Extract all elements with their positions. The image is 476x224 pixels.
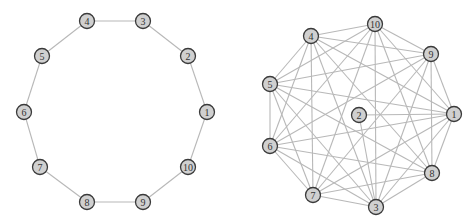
node-label: 7 xyxy=(311,190,316,201)
node-label: 8 xyxy=(85,197,90,208)
node-label: 10 xyxy=(370,19,380,30)
node-1[interactable]: 1 xyxy=(200,105,215,120)
dense-graph: 12345678910 xyxy=(263,17,462,215)
node-label: 5 xyxy=(40,51,45,62)
cycle-graph-edges xyxy=(24,21,207,202)
edge-4-9 xyxy=(311,36,431,54)
node-7[interactable]: 7 xyxy=(306,188,321,203)
node-label: 5 xyxy=(268,79,273,90)
node-2[interactable]: 2 xyxy=(352,108,367,123)
node-6[interactable]: 6 xyxy=(17,105,32,120)
node-label: 9 xyxy=(429,49,434,60)
node-label: 1 xyxy=(205,107,210,118)
node-label: 3 xyxy=(374,202,379,213)
node-4[interactable]: 4 xyxy=(80,14,95,29)
edge-6-7 xyxy=(24,112,40,167)
node-label: 6 xyxy=(22,107,27,118)
node-label: 7 xyxy=(38,162,43,173)
node-3[interactable]: 3 xyxy=(136,14,151,29)
edge-3-9 xyxy=(376,54,431,207)
edge-2-1 xyxy=(359,114,454,115)
node-10[interactable]: 10 xyxy=(181,160,196,175)
node-10[interactable]: 10 xyxy=(368,17,383,32)
node-8[interactable]: 8 xyxy=(425,166,440,181)
edge-8-9 xyxy=(431,54,432,173)
edge-1-8 xyxy=(432,114,454,173)
edge-5-10 xyxy=(270,24,375,84)
cycle-graph-nodes: 12345678910 xyxy=(17,14,215,210)
node-label: 8 xyxy=(430,168,435,179)
node-label: 6 xyxy=(268,141,273,152)
node-5[interactable]: 5 xyxy=(35,49,50,64)
graph-canvas: 12345678910 12345678910 xyxy=(0,0,476,224)
node-7[interactable]: 7 xyxy=(33,160,48,175)
edge-5-6 xyxy=(24,56,42,112)
node-label: 4 xyxy=(85,16,90,27)
node-5[interactable]: 5 xyxy=(263,77,278,92)
node-label: 2 xyxy=(186,51,191,62)
node-label: 3 xyxy=(141,16,146,27)
node-label: 2 xyxy=(357,110,362,121)
node-3[interactable]: 3 xyxy=(369,200,384,215)
node-label: 10 xyxy=(183,162,193,173)
edge-3-10 xyxy=(375,24,376,207)
edge-1-9 xyxy=(431,54,454,114)
node-9[interactable]: 9 xyxy=(424,47,439,62)
node-label: 1 xyxy=(452,109,457,120)
edge-2-3 xyxy=(143,21,188,56)
cycle-graph: 12345678910 xyxy=(17,14,215,210)
edge-4-5 xyxy=(270,36,311,84)
edge-1-2 xyxy=(188,56,207,112)
node-8[interactable]: 8 xyxy=(80,195,95,210)
edge-7-8 xyxy=(40,167,87,202)
node-1[interactable]: 1 xyxy=(447,107,462,122)
node-6[interactable]: 6 xyxy=(263,139,278,154)
edge-9-10 xyxy=(143,167,188,202)
edge-6-7 xyxy=(270,146,313,195)
node-label: 4 xyxy=(309,31,314,42)
node-2[interactable]: 2 xyxy=(181,49,196,64)
edge-10-1 xyxy=(188,112,207,167)
edge-4-5 xyxy=(42,21,87,56)
node-4[interactable]: 4 xyxy=(304,29,319,44)
edge-3-4 xyxy=(311,36,376,207)
node-9[interactable]: 9 xyxy=(136,195,151,210)
edge-5-9 xyxy=(270,54,431,84)
edge-8-10 xyxy=(375,24,432,173)
node-label: 9 xyxy=(141,197,146,208)
